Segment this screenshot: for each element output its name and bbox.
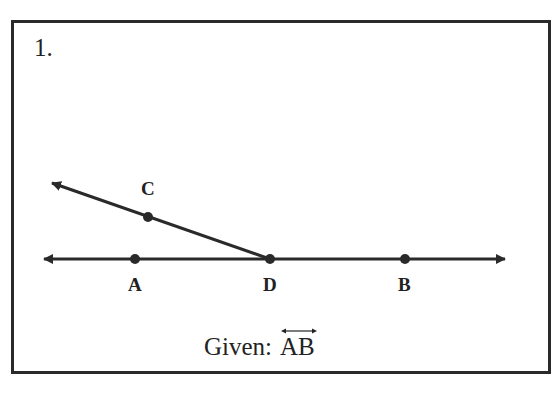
line-overbar-icon — [281, 327, 317, 335]
given-line-ab: AB — [280, 333, 315, 361]
point-a — [130, 254, 140, 264]
point-b — [400, 254, 410, 264]
label-a: A — [128, 274, 142, 296]
label-c: C — [141, 178, 155, 200]
given-prefix: Given: — [204, 333, 272, 360]
point-d — [265, 254, 275, 264]
label-b: B — [398, 274, 411, 296]
given-object: AB — [280, 333, 315, 360]
point-c — [143, 212, 153, 222]
ray-dc — [52, 183, 270, 259]
label-d: D — [263, 274, 277, 296]
given-statement: Given: AB — [204, 333, 315, 361]
